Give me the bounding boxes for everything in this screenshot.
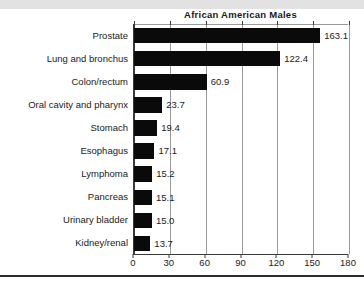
bar-row[interactable]: 17.1 [134, 143, 348, 159]
bar-row[interactable]: 15.2 [134, 166, 348, 182]
bar-row[interactable]: 15.1 [134, 190, 348, 206]
plot-area: 163.1122.460.923.719.417.115.215.115.013… [133, 24, 348, 255]
bar-row[interactable]: 13.7 [134, 236, 348, 252]
bar-row[interactable]: 19.4 [134, 120, 348, 136]
category-label: Prostate [0, 31, 128, 41]
category-axis-labels: ProstateLung and bronchusColon/rectumOra… [0, 24, 128, 255]
bar[interactable] [134, 97, 162, 113]
bar-value-label: 13.7 [154, 239, 173, 249]
top-tick-180 [349, 21, 350, 25]
bar-value-label: 122.4 [284, 54, 308, 64]
bar-series: 163.1122.460.923.719.417.115.215.115.013… [134, 24, 348, 254]
top-border-band [0, 0, 364, 9]
x-tick-label-120: 120 [268, 258, 284, 268]
category-label: Esophagus [0, 146, 128, 156]
category-label: Lung and bronchus [0, 54, 128, 64]
category-label: Lymphoma [0, 169, 128, 179]
bar[interactable] [134, 120, 157, 136]
bar[interactable] [134, 166, 152, 182]
x-tick-label-60: 60 [199, 258, 210, 268]
bar[interactable] [134, 190, 152, 206]
x-tick-label-0: 0 [130, 258, 135, 268]
chart-figure: African American Males 163.1122.460.923.… [0, 0, 364, 285]
bar[interactable] [134, 236, 150, 252]
bar-value-label: 60.9 [211, 77, 230, 87]
bottom-border-rule [0, 275, 364, 277]
x-tick-label-150: 150 [304, 258, 320, 268]
bar[interactable] [134, 213, 152, 229]
bar[interactable] [134, 28, 320, 44]
category-label: Oral cavity and pharynx [0, 100, 128, 110]
bar-value-label: 17.1 [158, 146, 177, 156]
bar-row[interactable]: 23.7 [134, 97, 348, 113]
category-label: Stomach [0, 123, 128, 133]
x-tick-label-180: 180 [340, 258, 356, 268]
bar-value-label: 15.2 [156, 169, 175, 179]
x-tick-label-90: 90 [235, 258, 246, 268]
bar-value-label: 163.1 [324, 31, 348, 41]
gridline-180 [349, 24, 350, 254]
x-axis-tick-labels: 0306090120150180 [133, 258, 348, 272]
bar[interactable] [134, 51, 280, 67]
bar-value-label: 23.7 [166, 100, 185, 110]
category-label: Colon/rectum [0, 77, 128, 87]
category-label: Urinary bladder [0, 215, 128, 225]
bar-row[interactable]: 15.0 [134, 213, 348, 229]
bar[interactable] [134, 74, 207, 90]
bar-row[interactable]: 163.1 [134, 28, 348, 44]
bar-value-label: 19.4 [161, 123, 180, 133]
x-tick-label-30: 30 [164, 258, 175, 268]
bar-row[interactable]: 122.4 [134, 51, 348, 67]
bar-value-label: 15.0 [156, 216, 175, 226]
bar-row[interactable]: 60.9 [134, 74, 348, 90]
category-label: Pancreas [0, 192, 128, 202]
bar-value-label: 15.1 [156, 193, 175, 203]
category-label: Kidney/renal [0, 238, 128, 248]
bar[interactable] [134, 143, 154, 159]
chart-title: African American Males [133, 9, 348, 20]
